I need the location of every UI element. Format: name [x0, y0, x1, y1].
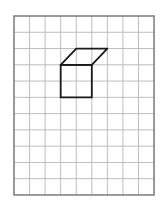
cube-top-face	[61, 49, 108, 65]
grid-border	[14, 16, 154, 195]
grid-lines	[14, 16, 154, 195]
grid-diagram	[0, 0, 163, 210]
